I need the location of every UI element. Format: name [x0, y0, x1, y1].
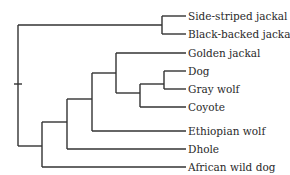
- taxon-label: Gray wolf: [188, 83, 241, 95]
- taxon-label: Ethiopian wolf: [188, 125, 266, 137]
- taxon-label: Coyote: [188, 101, 225, 113]
- taxon-label: African wild dog: [187, 161, 276, 173]
- taxon-label: Dhole: [188, 143, 219, 155]
- taxon-label: Black-backed jackal: [188, 28, 290, 40]
- taxon-label: Golden jackal: [188, 47, 261, 59]
- phylogenetic-tree: Side-striped jackal Black-backed jackal …: [0, 0, 290, 175]
- taxon-label: Dog: [188, 65, 210, 77]
- taxon-label: Side-striped jackal: [188, 10, 288, 22]
